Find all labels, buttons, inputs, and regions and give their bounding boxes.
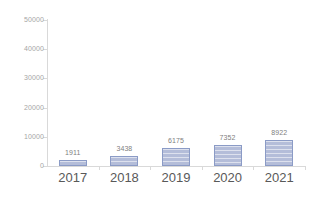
bar-2018 [110, 156, 138, 166]
bar-2020 [214, 145, 242, 166]
y-tick-label: 0 [40, 162, 44, 170]
y-tick-label: 30000 [24, 74, 44, 82]
y-axis-line [47, 19, 48, 167]
y-tick-label: 50000 [24, 16, 44, 24]
bar-value-label-2021: 8922 [249, 129, 309, 137]
y-tick-label: 10000 [24, 133, 44, 141]
bar-chart: 01000020000300004000050000 1911201734382… [0, 0, 312, 199]
bar-2017 [59, 160, 87, 166]
bar-2021 [265, 140, 293, 166]
bar-value-label-2018: 3438 [94, 145, 154, 153]
y-tick-label: 40000 [24, 45, 44, 53]
x-axis-label-2021: 2021 [249, 170, 309, 186]
x-axis-line [47, 166, 305, 167]
bar-2019 [162, 148, 190, 166]
y-tick-label: 20000 [24, 104, 44, 112]
